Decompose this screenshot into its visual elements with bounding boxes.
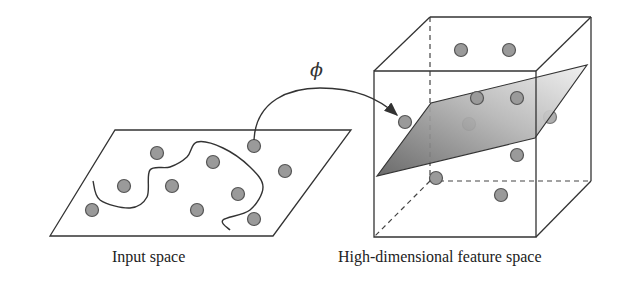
data-point: [495, 189, 508, 202]
data-point: [248, 140, 261, 153]
data-point: [232, 188, 245, 201]
feature-space-cube: [374, 17, 591, 237]
data-point: [207, 156, 220, 169]
input-points: [86, 140, 292, 226]
data-point: [399, 116, 412, 129]
data-point: [471, 92, 484, 105]
diagram-canvas: [0, 0, 639, 285]
data-point: [279, 165, 292, 178]
mapping-arrow: [254, 88, 397, 140]
data-point: [455, 44, 468, 57]
phi-mapping-label: ϕ: [310, 58, 323, 80]
data-point: [511, 149, 524, 162]
data-point: [430, 172, 443, 185]
data-point: [511, 92, 524, 105]
cube-edge-tl: [374, 17, 430, 71]
data-point: [248, 213, 261, 226]
hidden-edge-diagonal: [374, 181, 430, 237]
input-space: [50, 130, 351, 236]
data-point: [86, 204, 99, 217]
cube-edge-br: [536, 181, 591, 237]
data-point: [151, 147, 164, 160]
data-point: [191, 204, 204, 217]
cube-edge-tr: [536, 17, 591, 71]
data-point: [166, 180, 179, 193]
feature-space-caption: High-dimensional feature space: [338, 248, 541, 266]
input-space-caption: Input space: [112, 248, 185, 266]
input-plane: [50, 130, 351, 236]
data-point: [118, 180, 131, 193]
data-point: [503, 44, 516, 57]
